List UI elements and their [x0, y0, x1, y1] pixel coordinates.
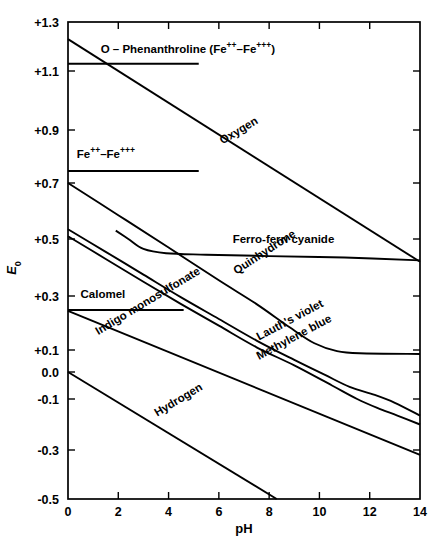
x-tick-label: 12 — [363, 505, 377, 519]
x-axis-tick-labels: 02468101214 — [65, 505, 427, 519]
curve-hydrogen — [68, 372, 277, 499]
y-tick-label: +0.7 — [34, 177, 59, 191]
y-axis-title: E0 — [4, 261, 23, 275]
curve-label-fe-fe: Fe++–Fe+++ — [77, 145, 135, 160]
y-tick-label: +0.9 — [34, 124, 59, 138]
curve-label-group: OxygenO – Phenanthroline (Fe++–Fe+++)Fe+… — [77, 40, 335, 419]
y-tick-label: +0.5 — [34, 233, 59, 247]
y-tick-label: +1.3 — [34, 16, 59, 30]
chart-figure: 02468101214 +1.3+1.1+0.9+0.7+0.5+0.3+0.1… — [0, 0, 434, 537]
y-tick-label: -0.5 — [37, 493, 59, 507]
x-tick-label: 10 — [312, 505, 326, 519]
x-tick-label: 4 — [165, 505, 172, 519]
x-tick-label: 6 — [215, 505, 222, 519]
x-tick-label: 0 — [65, 505, 72, 519]
y-axis-tick-labels: +1.3+1.1+0.9+0.7+0.5+0.3+0.10.0-0.1-0.3-… — [34, 16, 59, 507]
y-tick-label: 0.0 — [42, 366, 59, 380]
x-tick-label: 2 — [115, 505, 122, 519]
x-tick-label: 8 — [266, 505, 273, 519]
curve-label-o-phenanthroline-fe-fe: O – Phenanthroline (Fe++–Fe+++) — [101, 40, 276, 55]
x-tick-label: 14 — [413, 505, 427, 519]
curve-label-hydrogen: Hydrogen — [152, 381, 204, 419]
curve-label-oxygen: Oxygen — [217, 114, 259, 146]
y-tick-label: +1.1 — [34, 65, 59, 79]
y-tick-label: +0.1 — [34, 344, 59, 358]
y-axis-title-text: E0 — [4, 261, 23, 275]
y-tick-label: +0.3 — [34, 290, 59, 304]
y-tick-label: -0.1 — [37, 393, 59, 407]
curve-label-calomel: Calomel — [81, 288, 126, 300]
y-tick-label: -0.3 — [37, 444, 59, 458]
x-axis-title: pH — [235, 521, 252, 536]
eh-ph-chart-svg: 02468101214 +1.3+1.1+0.9+0.7+0.5+0.3+0.1… — [0, 0, 434, 537]
